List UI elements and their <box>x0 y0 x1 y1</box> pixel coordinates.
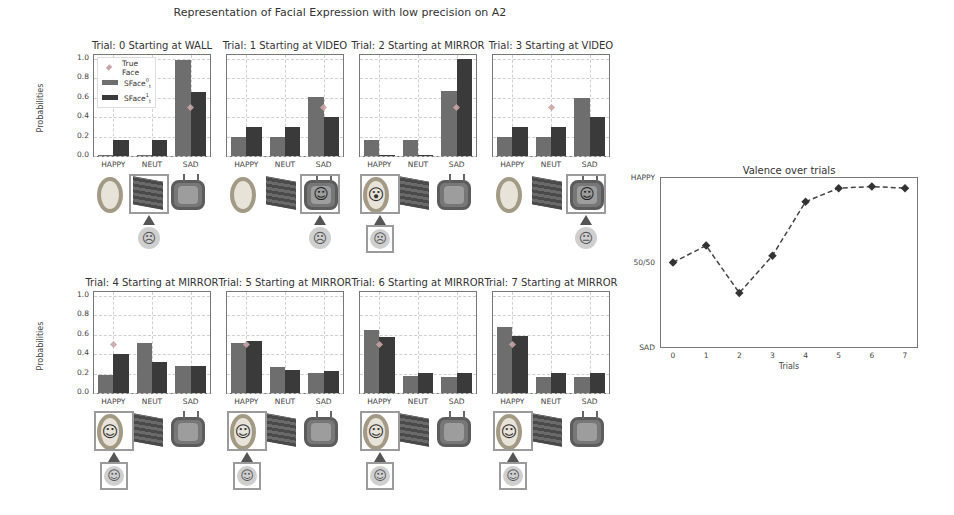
brick-wall-icon <box>532 413 562 446</box>
mirror-icon <box>97 177 123 213</box>
x-tick-label: HAPPY <box>226 160 266 169</box>
tv-antenna-icon <box>449 174 465 182</box>
diamond-marker-icon <box>834 184 842 192</box>
valence-ytick-sad: SAD <box>615 343 655 352</box>
plot-area <box>492 291 610 394</box>
legend-sface0: SFace0t <box>102 75 151 90</box>
bar-sad-sface0 <box>441 91 456 156</box>
brick-wall-icon <box>532 176 562 209</box>
valence-xtick: 7 <box>898 351 912 360</box>
bar-happy-sface0 <box>98 155 113 156</box>
tv-icon <box>171 417 205 447</box>
x-tick-label: HAPPY <box>359 160 399 169</box>
x-tick-label: HAPPY <box>93 160 133 169</box>
y-tick-label: 1.0 <box>67 290 89 299</box>
y-tick-label: 0.8 <box>67 72 89 81</box>
bar-happy-sface0 <box>497 327 512 393</box>
y-tick-label: 0.8 <box>67 309 89 318</box>
tv-icon <box>570 417 604 447</box>
y-tick-label: 0.2 <box>67 368 89 377</box>
x-tick-label: SAD <box>304 397 344 406</box>
brick-wall-icon <box>133 413 163 446</box>
mirror-icon <box>496 177 522 213</box>
bar-happy-sface0 <box>497 137 512 156</box>
plot-area <box>226 291 344 394</box>
tv-icon <box>437 180 471 210</box>
selection-frame <box>566 174 606 214</box>
tv-antenna-icon <box>582 411 598 419</box>
selection-frame <box>360 411 400 451</box>
grid-line <box>379 55 380 156</box>
arrow-up-icon <box>314 215 326 225</box>
grid-line <box>94 393 210 394</box>
brick-wall-icon <box>399 413 429 446</box>
tv-icon <box>304 417 338 447</box>
bar-happy-sface0 <box>364 140 379 156</box>
x-tick-label: SAD <box>570 160 610 169</box>
observed-face-icon: ☺ <box>370 466 390 486</box>
bar-sad-sface1 <box>324 371 339 393</box>
selection-frame <box>360 174 400 214</box>
bar-neut-sface1 <box>285 370 300 393</box>
figure-suptitle: Representation of Facial Expression with… <box>0 6 680 19</box>
x-tick-label: SAD <box>437 397 477 406</box>
brick-wall-icon <box>266 413 296 446</box>
plot-area <box>359 291 477 394</box>
grid-line <box>418 55 419 156</box>
bar-sad-sface1 <box>457 373 472 393</box>
tv-screen <box>178 186 198 204</box>
grid-line <box>94 156 210 157</box>
bar-sad-sface0 <box>175 366 190 393</box>
tv-antenna-icon <box>316 411 332 419</box>
grid-line <box>227 156 343 157</box>
valence-xtick: 6 <box>865 351 879 360</box>
diamond-marker-icon <box>669 258 677 266</box>
bar-sad-sface1 <box>590 117 605 156</box>
plot-area <box>492 54 610 157</box>
bar-happy-sface1 <box>512 127 527 156</box>
bar-neut-sface1 <box>418 155 433 156</box>
x-tick-label: NEUT <box>531 160 571 169</box>
bar-happy-sface1 <box>246 127 261 156</box>
panel-title: Trial: 3 Starting at VIDEO <box>472 40 630 51</box>
true-face-marker <box>547 104 554 111</box>
bar-neut-sface1 <box>152 140 167 156</box>
diamond-marker-icon <box>868 182 876 190</box>
grid-line <box>493 393 609 394</box>
tv-screen <box>444 423 464 441</box>
valence-xtick: 0 <box>666 351 680 360</box>
x-tick-label: HAPPY <box>492 397 532 406</box>
bar-sad-sface1 <box>590 373 605 393</box>
grid-line <box>360 156 476 157</box>
legend-label: SFace0t <box>124 77 151 89</box>
grid-line <box>360 393 476 394</box>
observed-face-icon: 😐 <box>575 227 597 249</box>
x-tick-label: NEUT <box>398 160 438 169</box>
x-tick-label: NEUT <box>265 397 305 406</box>
observed-face-icon: ☺ <box>104 466 124 486</box>
diamond-marker-icon <box>801 197 809 205</box>
arrow-up-icon <box>374 452 386 462</box>
arrow-up-icon <box>374 215 386 225</box>
bar-neut-sface0 <box>536 377 551 393</box>
bar-sad-sface0 <box>574 98 589 156</box>
bar-happy-sface1 <box>379 155 394 156</box>
y-tick-label: 1.0 <box>67 53 89 62</box>
valence-xlabel: Trials <box>759 362 819 371</box>
diamond-marker-icon <box>702 241 710 249</box>
brick-wall-icon <box>266 176 296 209</box>
bar-sad-sface1 <box>324 117 339 156</box>
valence-xtick: 3 <box>765 351 779 360</box>
tv-screen <box>577 423 597 441</box>
bar-neut-sface1 <box>418 373 433 393</box>
x-tick-label: HAPPY <box>226 397 266 406</box>
swatch-icon <box>102 95 118 100</box>
x-tick-label: NEUT <box>265 160 305 169</box>
swatch-icon <box>102 80 118 85</box>
x-tick-label: SAD <box>570 397 610 406</box>
observed-face-icon: ☹ <box>138 227 160 249</box>
x-tick-label: HAPPY <box>359 397 399 406</box>
valence-title: Valence over trials <box>660 165 918 176</box>
panel-title: Trial: 7 Starting at MIRROR <box>472 277 630 288</box>
plot-area <box>359 54 477 157</box>
